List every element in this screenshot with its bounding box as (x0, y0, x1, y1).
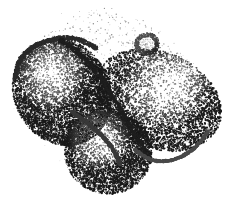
artwork-frame: Black-and-white stipple drawing of a thi… (0, 0, 245, 204)
stipple-illustration-canvas (0, 0, 245, 204)
